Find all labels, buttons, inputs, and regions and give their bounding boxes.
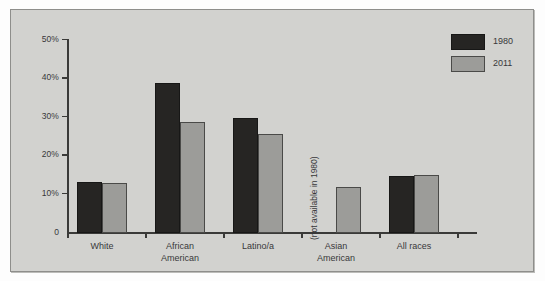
bar-asian-american-2011 [336, 187, 361, 233]
y-tick-label-50: 50% [17, 34, 59, 44]
x-label-asian-american-line2: American [276, 253, 396, 265]
y-tick-label-30: 30% [17, 111, 59, 121]
legend-item-2011: 2011 [451, 54, 531, 76]
x-label-all-races-line1: All races [354, 241, 474, 253]
legend-swatch-2011-icon [451, 56, 485, 72]
y-tick-label-40: 40% [17, 72, 59, 82]
legend-item-1980: 1980 [451, 32, 531, 54]
chart-legend: 1980 2011 [451, 32, 531, 76]
x-label-all-races: All races [354, 241, 474, 253]
bar-white-2011 [102, 183, 127, 233]
bar-african-american-2011 [180, 122, 205, 233]
x-tick-1 [145, 233, 147, 238]
bar-latino-1980 [233, 118, 258, 233]
legend-label-1980: 1980 [493, 36, 513, 46]
bar-all-races-1980 [389, 176, 414, 233]
y-tick-label-0: 0 [17, 227, 59, 237]
legend-swatch-1980-icon [451, 34, 485, 50]
y-tick-label-10: 10% [17, 188, 59, 198]
x-label-african-american-line2: American [120, 253, 240, 265]
x-tick-5 [457, 233, 459, 238]
plot-area: 50% 40% 30% 20% 10% 0 [11, 10, 535, 273]
legend-label-2011: 2011 [493, 58, 512, 68]
x-tick-start [67, 233, 69, 238]
chart-figure: 50% 40% 30% 20% 10% 0 [0, 0, 545, 281]
bar-african-american-1980 [155, 83, 180, 233]
bar-all-races-2011 [414, 175, 439, 233]
bar-latino-2011 [258, 134, 283, 233]
x-tick-4 [379, 233, 381, 238]
y-axis-line [67, 39, 69, 233]
chart-plate: 50% 40% 30% 20% 10% 0 [10, 9, 534, 272]
x-tick-3 [301, 233, 303, 238]
not-available-annotation: (not available in 1980) [309, 156, 319, 240]
y-tick-label-20: 20% [17, 149, 59, 159]
bar-white-1980 [77, 182, 102, 233]
x-tick-2 [223, 233, 225, 238]
